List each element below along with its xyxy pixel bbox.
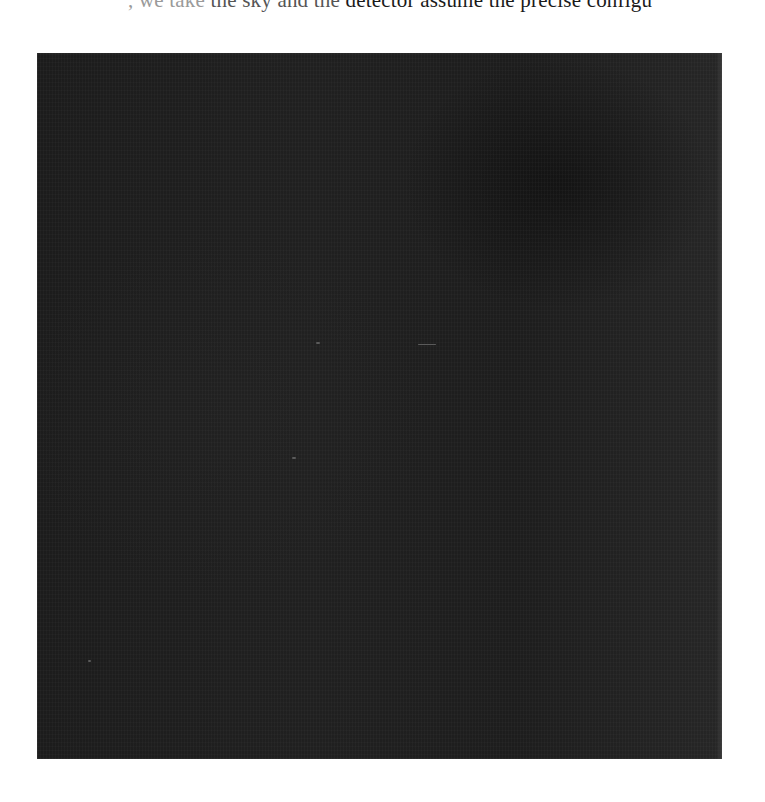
image-noise-texture (37, 53, 722, 759)
text-segment-dark: detector assume the precise configu (345, 0, 652, 12)
image-feature-dot (88, 660, 91, 662)
image-feature-dot (316, 342, 320, 344)
text-segment-faint: , we take (128, 0, 205, 12)
image-right-edge (716, 53, 722, 759)
text-segment-mid: the sky and the (205, 0, 345, 12)
body-text-line: , we take the sky and the detector assum… (128, 0, 652, 11)
image-feature-dash (418, 344, 436, 345)
detector-image-figure (37, 53, 722, 759)
clipped-body-text: , we take the sky and the detector assum… (0, 0, 765, 14)
image-feature-dot (292, 457, 296, 459)
